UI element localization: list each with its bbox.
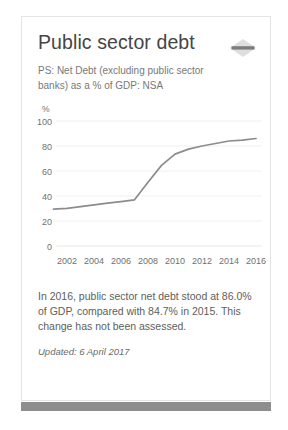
y-axis-tick-labels: 100 80 60 40 20 0	[37, 117, 52, 252]
svg-text:100: 100	[37, 117, 52, 127]
svg-text:2016: 2016	[246, 256, 266, 266]
gridlines	[56, 121, 262, 246]
svg-text:2004: 2004	[84, 256, 104, 266]
svg-text:40: 40	[42, 192, 52, 202]
collapse-diamond-icon[interactable]	[228, 37, 258, 59]
card-footer: In 2016, public sector net debt stood at…	[38, 289, 254, 359]
svg-text:20: 20	[42, 217, 52, 227]
horizontal-scrollbar-track[interactable]	[21, 402, 271, 411]
chart-svg: % 100 80 60 40 20 0	[22, 103, 270, 275]
svg-text:2012: 2012	[192, 256, 212, 266]
page-root: Public sector debt PS: Net Debt (excludi…	[0, 0, 288, 430]
svg-text:2006: 2006	[111, 256, 131, 266]
svg-text:0: 0	[47, 242, 52, 252]
debt-series-line	[54, 139, 257, 210]
svg-text:2014: 2014	[219, 256, 239, 266]
horizontal-scrollbar-thumb[interactable]	[21, 402, 271, 411]
debt-line-chart: % 100 80 60 40 20 0	[22, 103, 270, 275]
svg-text:2002: 2002	[57, 256, 77, 266]
footer-summary-text: In 2016, public sector net debt stood at…	[38, 289, 254, 334]
y-axis-unit-label: %	[42, 104, 50, 114]
page-title: Public sector debt	[38, 30, 213, 54]
svg-text:2010: 2010	[165, 256, 185, 266]
x-axis-tick-labels: 2002 2004 2006 2008 2010 2012 2014 2016	[57, 256, 266, 266]
svg-text:80: 80	[42, 142, 52, 152]
card-header: Public sector debt	[22, 17, 270, 54]
card-subtitle: PS: Net Debt (excluding public sector ba…	[38, 64, 218, 93]
svg-text:2008: 2008	[138, 256, 158, 266]
svg-text:60: 60	[42, 167, 52, 177]
public-sector-debt-card: Public sector debt PS: Net Debt (excludi…	[21, 16, 271, 401]
footer-updated-text: Updated: 6 April 2017	[38, 345, 254, 359]
